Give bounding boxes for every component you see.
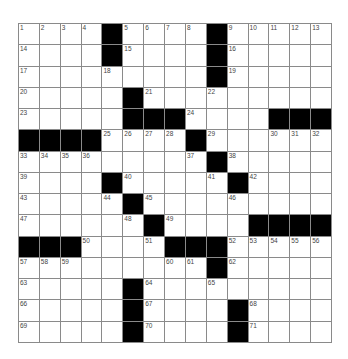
grid-cell[interactable]: 36 (82, 152, 103, 173)
grid-cell[interactable] (165, 152, 186, 173)
grid-cell[interactable] (82, 215, 103, 236)
grid-cell[interactable]: 64 (144, 279, 165, 300)
grid-cell[interactable]: 29 (207, 130, 228, 151)
grid-cell[interactable] (61, 173, 82, 194)
grid-cell[interactable] (82, 45, 103, 66)
grid-cell[interactable]: 54 (269, 237, 290, 258)
grid-cell[interactable]: 8 (186, 24, 207, 45)
grid-cell[interactable] (311, 194, 332, 215)
grid-cell[interactable] (186, 322, 207, 343)
grid-cell[interactable]: 71 (249, 322, 270, 343)
grid-cell[interactable]: 67 (144, 300, 165, 321)
grid-cell[interactable] (249, 194, 270, 215)
grid-cell[interactable] (290, 152, 311, 173)
grid-cell[interactable] (82, 173, 103, 194)
grid-cell[interactable] (40, 194, 61, 215)
grid-cell[interactable] (40, 215, 61, 236)
grid-cell[interactable] (123, 258, 144, 279)
grid-cell[interactable] (207, 215, 228, 236)
grid-cell[interactable]: 45 (144, 194, 165, 215)
grid-cell[interactable] (249, 45, 270, 66)
grid-cell[interactable] (290, 173, 311, 194)
grid-cell[interactable] (102, 109, 123, 130)
grid-cell[interactable] (311, 322, 332, 343)
grid-cell[interactable]: 2 (40, 24, 61, 45)
grid-cell[interactable] (249, 279, 270, 300)
grid-cell[interactable] (165, 194, 186, 215)
grid-cell[interactable] (82, 279, 103, 300)
grid-cell[interactable] (186, 194, 207, 215)
grid-cell[interactable]: 5 (123, 24, 144, 45)
grid-cell[interactable] (290, 67, 311, 88)
grid-cell[interactable]: 55 (290, 237, 311, 258)
grid-cell[interactable]: 6 (144, 24, 165, 45)
grid-cell[interactable]: 13 (311, 24, 332, 45)
grid-cell[interactable] (269, 173, 290, 194)
grid-cell[interactable] (269, 258, 290, 279)
grid-cell[interactable]: 21 (144, 88, 165, 109)
grid-cell[interactable]: 51 (144, 237, 165, 258)
grid-cell[interactable] (249, 88, 270, 109)
grid-cell[interactable]: 20 (19, 88, 40, 109)
grid-cell[interactable]: 31 (290, 130, 311, 151)
grid-cell[interactable] (186, 45, 207, 66)
grid-cell[interactable]: 34 (40, 152, 61, 173)
grid-cell[interactable] (82, 322, 103, 343)
grid-cell[interactable] (102, 152, 123, 173)
grid-cell[interactable]: 22 (207, 88, 228, 109)
grid-cell[interactable]: 62 (228, 258, 249, 279)
grid-cell[interactable]: 39 (19, 173, 40, 194)
grid-cell[interactable]: 15 (123, 45, 144, 66)
grid-cell[interactable] (269, 300, 290, 321)
grid-cell[interactable]: 56 (311, 237, 332, 258)
grid-cell[interactable] (61, 322, 82, 343)
grid-cell[interactable] (290, 322, 311, 343)
grid-cell[interactable] (186, 88, 207, 109)
grid-cell[interactable] (123, 237, 144, 258)
grid-cell[interactable] (40, 279, 61, 300)
grid-cell[interactable] (269, 88, 290, 109)
grid-cell[interactable] (61, 109, 82, 130)
grid-cell[interactable]: 7 (165, 24, 186, 45)
grid-cell[interactable] (228, 109, 249, 130)
grid-cell[interactable] (40, 67, 61, 88)
grid-cell[interactable] (102, 300, 123, 321)
grid-cell[interactable] (102, 258, 123, 279)
grid-cell[interactable] (102, 322, 123, 343)
grid-cell[interactable] (207, 109, 228, 130)
grid-cell[interactable]: 30 (269, 130, 290, 151)
grid-cell[interactable]: 47 (19, 215, 40, 236)
grid-cell[interactable] (228, 279, 249, 300)
grid-cell[interactable] (249, 67, 270, 88)
grid-cell[interactable]: 27 (144, 130, 165, 151)
grid-cell[interactable]: 26 (123, 130, 144, 151)
grid-cell[interactable] (186, 300, 207, 321)
grid-cell[interactable] (123, 152, 144, 173)
grid-cell[interactable]: 66 (19, 300, 40, 321)
grid-cell[interactable] (40, 88, 61, 109)
grid-cell[interactable] (144, 67, 165, 88)
grid-cell[interactable] (165, 300, 186, 321)
grid-cell[interactable]: 38 (228, 152, 249, 173)
grid-cell[interactable] (61, 194, 82, 215)
grid-cell[interactable] (82, 300, 103, 321)
grid-cell[interactable]: 41 (207, 173, 228, 194)
grid-cell[interactable]: 52 (228, 237, 249, 258)
grid-cell[interactable]: 46 (228, 194, 249, 215)
grid-cell[interactable]: 33 (19, 152, 40, 173)
grid-cell[interactable]: 12 (290, 24, 311, 45)
grid-cell[interactable]: 23 (19, 109, 40, 130)
grid-cell[interactable] (290, 279, 311, 300)
grid-cell[interactable]: 16 (228, 45, 249, 66)
grid-cell[interactable] (165, 45, 186, 66)
grid-cell[interactable] (165, 322, 186, 343)
grid-cell[interactable]: 1 (19, 24, 40, 45)
grid-cell[interactable] (228, 215, 249, 236)
grid-cell[interactable]: 4 (82, 24, 103, 45)
grid-cell[interactable]: 28 (165, 130, 186, 151)
grid-cell[interactable] (269, 194, 290, 215)
grid-cell[interactable] (123, 67, 144, 88)
grid-cell[interactable] (40, 45, 61, 66)
grid-cell[interactable]: 25 (102, 130, 123, 151)
grid-cell[interactable] (269, 67, 290, 88)
